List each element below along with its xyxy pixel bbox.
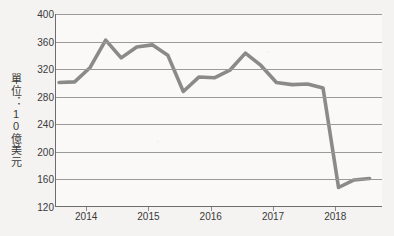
y-axis-tick-label-group: 400360320280240200160120 (22, 0, 54, 236)
x-axis-tick-label-group: 20142015201620172018 (55, 211, 382, 227)
gridline (56, 97, 382, 98)
gridline (56, 179, 382, 180)
y-axis-tick-label: 240 (22, 119, 54, 130)
x-axis-tick-label: 2017 (251, 211, 295, 222)
y-axis-tick-label: 280 (22, 91, 54, 102)
data-line (59, 40, 369, 187)
y-axis-tick-label: 320 (22, 64, 54, 75)
y-axis-tick-label: 120 (22, 202, 54, 213)
x-axis-tick-label: 2015 (126, 211, 170, 222)
plot-area (55, 14, 382, 207)
x-axis-tick-label: 2014 (64, 211, 108, 222)
y-axis-tick-label: 200 (22, 146, 54, 157)
x-axis-tick-label: 2016 (189, 211, 233, 222)
gridline (56, 69, 382, 70)
gridline (56, 152, 382, 153)
gridline (56, 124, 382, 125)
chart-screenshot: 單位：10億美元 400360320280240200160120 201420… (0, 0, 394, 236)
y-axis-tick-label: 160 (22, 174, 54, 185)
gridline (56, 42, 382, 43)
line-series-svg (56, 14, 382, 206)
x-axis-tick-label: 2018 (313, 211, 357, 222)
y-axis-tick-label: 400 (22, 9, 54, 20)
y-axis-title: 單位：10億美元 (2, 56, 22, 184)
y-axis-tick-label: 360 (22, 36, 54, 47)
gridline (56, 14, 382, 15)
